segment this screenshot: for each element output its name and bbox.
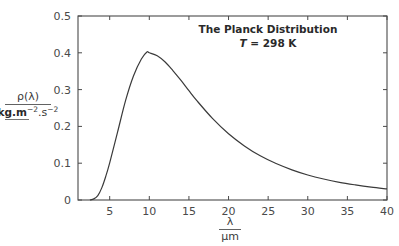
- y-tick-label: 0.3: [54, 84, 72, 97]
- x-axis-label-denominator: μm: [221, 230, 239, 243]
- x-axis-label-numerator: λ: [227, 215, 234, 228]
- x-tick-label: 30: [301, 205, 315, 218]
- x-tick-label: 40: [380, 205, 394, 218]
- y-axis-ticks: 00.10.20.30.40.5: [54, 10, 388, 207]
- temperature-value: = 298 K: [247, 37, 298, 49]
- x-tick-label: 10: [142, 205, 156, 218]
- x-tick-label: 25: [261, 205, 275, 218]
- y-tick-label: 0.4: [54, 47, 72, 60]
- x-tick-label: 5: [106, 205, 113, 218]
- y-axis-label-denominator: kg.m−2.s−2: [0, 105, 59, 119]
- chart-subtitle: T = 298 K: [240, 37, 298, 49]
- y-tick-label: 0: [64, 194, 71, 207]
- y-axis-label: ρ(λ) kg.m−2.s−2: [0, 90, 59, 120]
- x-tick-label: 15: [182, 205, 196, 218]
- y-tick-label: 0.5: [54, 10, 72, 23]
- chart-title: The Planck Distribution: [199, 23, 338, 35]
- plot-border: [78, 16, 387, 200]
- x-axis-label: λ μm: [219, 215, 241, 243]
- planck-curve: [90, 52, 387, 200]
- x-tick-label: 35: [340, 205, 354, 218]
- y-tick-label: 0.2: [54, 120, 72, 133]
- planck-chart: 510152025303540 00.10.20.30.40.5 The Pla…: [0, 0, 399, 246]
- y-axis-label-numerator: ρ(λ): [17, 90, 39, 103]
- plot-frame: [78, 16, 387, 200]
- y-tick-label: 0.1: [54, 157, 72, 170]
